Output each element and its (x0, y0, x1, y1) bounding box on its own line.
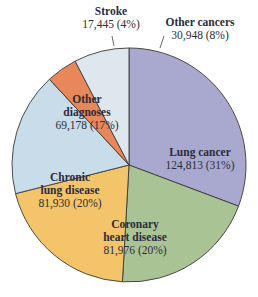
label-name: Chronic (20, 171, 120, 184)
stroke-leader-line (112, 36, 114, 46)
label-other-cancers: Other cancers 30,948 (8%) (150, 16, 250, 42)
label-value: 81,930 (20%) (20, 197, 120, 210)
label-name: Other (42, 93, 132, 106)
label-name: heart disease (85, 231, 185, 244)
label-lung-cancer: Lung cancer 124,813 (31%) (150, 146, 250, 172)
label-name: Other cancers (150, 16, 250, 29)
label-chronic-lung-disease: Chronic lung disease 81,930 (20%) (20, 171, 120, 210)
label-name: diagnoses (42, 106, 132, 119)
label-value: 17,445 (4%) (66, 18, 156, 31)
label-name: Coronary (85, 218, 185, 231)
label-name: Lung cancer (150, 146, 250, 159)
label-value: 124,813 (31%) (150, 159, 250, 172)
label-name: Stroke (66, 5, 156, 18)
label-other-diagnoses: Other diagnoses 69,178 (17%) (42, 93, 132, 132)
label-coronary-heart-disease: Coronary heart disease 81,976 (20%) (85, 218, 185, 257)
label-value: 30,948 (8%) (150, 29, 250, 42)
label-value: 81,976 (20%) (85, 244, 185, 257)
label-value: 69,178 (17%) (42, 119, 132, 132)
label-stroke: Stroke 17,445 (4%) (66, 5, 156, 31)
label-name: lung disease (20, 184, 120, 197)
